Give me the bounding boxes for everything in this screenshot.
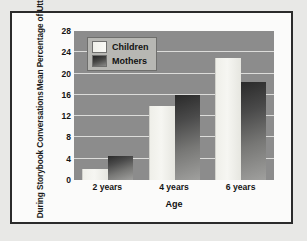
y-axis-title-line-2: During Storybook Conversations (36, 91, 45, 218)
bar-mothers-6-years (241, 82, 266, 180)
legend-swatch-children (92, 41, 107, 53)
bar-children-6-years (215, 58, 241, 180)
y-axis-title-line-1: Mean Percentage of Utterances (36, 0, 45, 90)
legend: Children Mothers (87, 37, 157, 71)
bar-mothers-2-years (108, 156, 133, 180)
legend-item-mothers: Mothers (92, 55, 149, 67)
x-axis-tick-label: 6 years (201, 182, 281, 192)
y-axis-tick-label: 8 (49, 132, 71, 142)
y-axis-tick-label: 28 (49, 26, 71, 36)
chart-figure-frame: During Storybook Conversations Mean Perc… (10, 11, 293, 224)
y-axis-tick-label: 20 (49, 69, 71, 79)
y-axis-tick-labels: 0481216202428 (46, 31, 71, 180)
legend-label-mothers: Mothers (112, 56, 147, 66)
y-axis-tick-label: 24 (49, 47, 71, 57)
bar-chart: During Storybook Conversations Mean Perc… (12, 13, 291, 222)
y-axis-tick-label: 12 (49, 111, 71, 121)
legend-label-children: Children (112, 42, 149, 52)
legend-swatch-mothers (92, 55, 107, 67)
bar-children-4-years (149, 106, 175, 181)
y-axis-tick-label: 4 (49, 154, 71, 164)
bar-children-2-years (82, 169, 108, 180)
y-axis-tick-label: 16 (49, 90, 71, 100)
plot-area: Children Mothers (74, 31, 274, 180)
x-axis-title: Age (74, 199, 274, 209)
gridline (74, 73, 274, 74)
legend-item-children: Children (92, 41, 149, 53)
x-axis-tick-labels: 2 years4 years6 years (74, 182, 274, 196)
bar-mothers-4-years (175, 95, 200, 180)
